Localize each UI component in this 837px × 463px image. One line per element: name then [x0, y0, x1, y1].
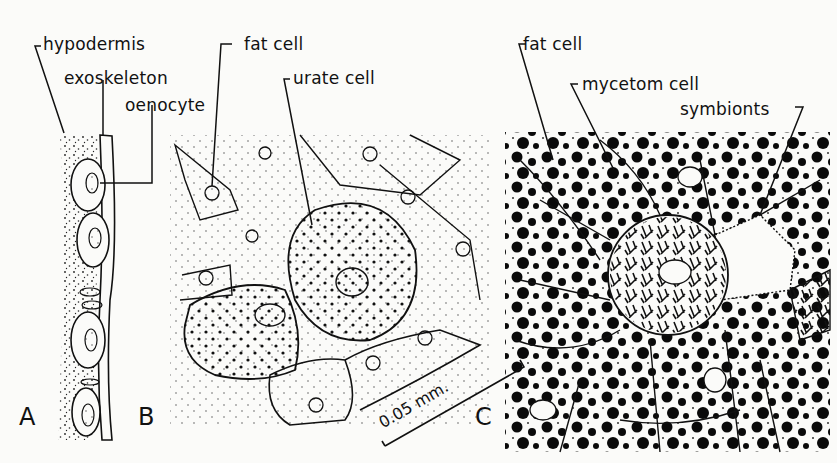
label-fat-cell-b: fat cell	[244, 35, 303, 53]
label-hypodermis: hypodermis	[43, 35, 145, 53]
label-exoskeleton: exoskeleton	[64, 69, 168, 87]
label-fat-cell-c: fat cell	[523, 35, 582, 53]
label-symbionts: symbionts	[680, 100, 770, 118]
panel-label-c: C	[475, 405, 492, 429]
label-oenocyte: oenocyte	[125, 96, 205, 114]
panel-c-drawing	[505, 132, 830, 452]
histology-figure: hypodermis exoskeleton oenocyte fat cell…	[0, 0, 837, 463]
label-mycetom-cell: mycetom cell	[582, 75, 699, 93]
panel-label-a: A	[19, 405, 35, 429]
panel-a-drawing	[58, 135, 115, 440]
label-urate-cell: urate cell	[293, 69, 375, 87]
panel-label-b: B	[138, 405, 154, 429]
